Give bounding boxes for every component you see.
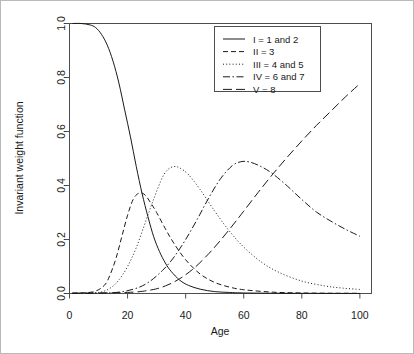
- x-axis-title: Age: [211, 325, 230, 337]
- legend-label-1: I = 1 and 2: [253, 34, 298, 45]
- x-tick-label: 40: [180, 309, 192, 321]
- series-line-5: [72, 84, 359, 294]
- y-tick-label: 0.4: [55, 178, 67, 193]
- x-tick-label: 80: [296, 309, 308, 321]
- x-tick-label: 100: [351, 309, 369, 321]
- legend-label-4: IV = 6 and 7: [253, 71, 305, 82]
- plot-canvas: 0.00.20.40.60.81.0 020406080100 Age Inva…: [1, 1, 414, 354]
- x-tick-label: 60: [238, 309, 250, 321]
- chart-legend: I = 1 and 2II = 3III = 4 and 5IV = 6 and…: [215, 27, 321, 95]
- y-tick-label: 0.0: [55, 286, 67, 301]
- y-tick-label: 1.0: [55, 16, 67, 31]
- y-tick-label: 0.6: [55, 124, 67, 139]
- x-tick-label: 20: [122, 309, 134, 321]
- y-axis-ticks: 0.00.20.40.60.81.0: [55, 16, 70, 301]
- y-axis-title: Invariant weight function: [13, 101, 25, 214]
- legend-label-3: III = 4 and 5: [253, 59, 303, 70]
- legend-label-2: II = 3: [253, 46, 274, 57]
- legend-label-5: V = 8: [253, 84, 275, 95]
- y-tick-label: 0.2: [55, 232, 67, 247]
- y-tick-label: 0.8: [55, 70, 67, 85]
- x-tick-label: 0: [67, 309, 73, 321]
- series-line-3: [72, 167, 359, 294]
- x-axis-ticks: 020406080100: [67, 294, 369, 321]
- series-line-4: [72, 161, 359, 293]
- chart-figure: 0.00.20.40.60.81.0 020406080100 Age Inva…: [0, 0, 414, 354]
- series-line-2: [72, 193, 359, 293]
